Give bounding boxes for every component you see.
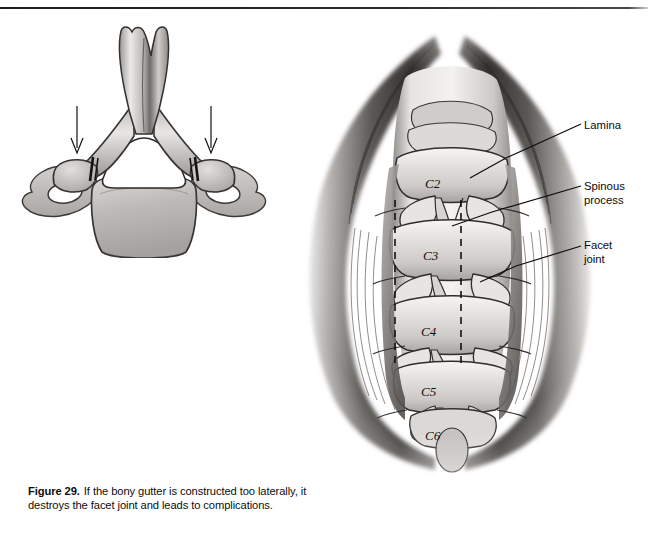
label-leader-lines (0, 0, 665, 558)
figure-caption: Figure 29.If the bony gutter is construc… (28, 484, 328, 512)
figure-number: Figure 29. (28, 485, 80, 497)
label-facet-joint: Facet joint (584, 239, 612, 266)
leader-line-lamina (470, 124, 581, 178)
label-spinous-process: Spinous process (584, 180, 625, 207)
leader-line-facet (480, 246, 581, 282)
leader-line-spinous (452, 186, 581, 226)
label-lamina: Lamina (584, 119, 621, 133)
figure-page: C2 C3 C4 C5 C6 Lamina Spinous process Fa… (0, 0, 665, 558)
